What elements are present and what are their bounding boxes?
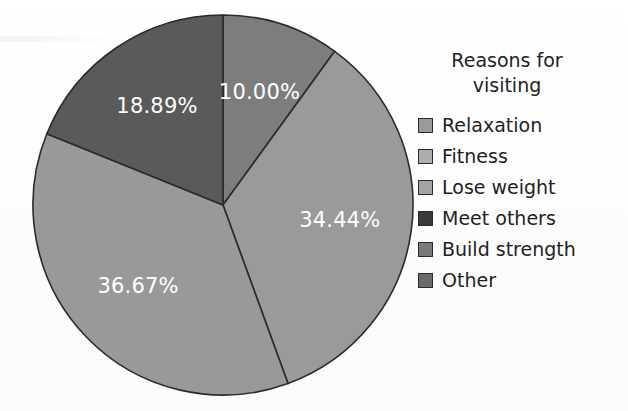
legend-item: Fitness: [414, 141, 620, 172]
pie-chart-svg: 10.00%34.44%36.67%18.89%: [30, 12, 416, 398]
legend-item: Relaxation: [414, 110, 620, 141]
legend-item-label: Relaxation: [442, 116, 542, 135]
pie-slice-label: 10.00%: [219, 80, 300, 104]
legend-title: Reasons for visiting: [416, 48, 598, 98]
legend-color-swatch: [418, 242, 433, 257]
chart-legend: Reasons for visiting RelaxationFitnessLo…: [414, 48, 620, 296]
legend-item-label: Fitness: [442, 147, 508, 166]
pie-chart-area: 10.00%34.44%36.67%18.89%: [30, 12, 416, 398]
legend-color-swatch: [418, 118, 433, 133]
legend-item-label: Other: [442, 271, 496, 290]
legend-item-label: Lose weight: [442, 178, 556, 197]
pie-slice-group: [33, 15, 413, 395]
legend-item-list: RelaxationFitnessLose weightMeet othersB…: [414, 110, 620, 296]
pie-slice-label: 18.89%: [116, 94, 197, 118]
legend-color-swatch: [418, 273, 433, 288]
legend-item-label: Build strength: [442, 240, 576, 259]
legend-item: Lose weight: [414, 172, 620, 203]
pie-slice-label: 36.67%: [97, 274, 178, 298]
pie-chart-figure: 10.00%34.44%36.67%18.89% Reasons for vis…: [0, 0, 628, 411]
legend-item-label: Meet others: [442, 209, 556, 228]
legend-color-swatch: [418, 149, 433, 164]
legend-color-swatch: [418, 180, 433, 195]
legend-item: Other: [414, 265, 620, 296]
legend-color-swatch: [418, 211, 433, 226]
legend-item: Build strength: [414, 234, 620, 265]
pie-slice-label: 34.44%: [299, 208, 380, 232]
legend-item: Meet others: [414, 203, 620, 234]
